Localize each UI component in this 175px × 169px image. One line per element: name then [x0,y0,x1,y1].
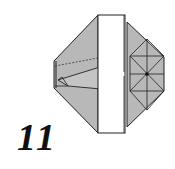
center-point [145,72,149,76]
center-strip [98,15,125,133]
left-flap [54,15,101,133]
right-panel [127,22,164,127]
step-number: 11 [17,118,57,156]
